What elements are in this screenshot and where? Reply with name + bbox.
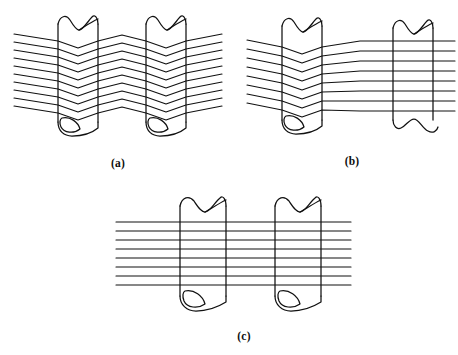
panel-a-tube-left (58, 16, 98, 136)
panel-c-caption: (c) (237, 330, 250, 343)
panel-c: (c) (116, 197, 351, 343)
figure-container: (a) (0, 0, 458, 355)
panel-a-tube-right (146, 16, 186, 136)
panel-a-caption: (a) (111, 157, 125, 170)
panel-b-caption: (b) (345, 155, 360, 168)
panel-a: (a) (14, 16, 222, 170)
panel-c-tube-right (275, 197, 321, 311)
panel-c-tube-left (180, 197, 226, 311)
panel-c-filament-lines (116, 222, 351, 285)
panel-a-filament-lines (14, 34, 222, 120)
panel-b-tube-right (393, 20, 438, 132)
panel-b-filament-lines (247, 40, 455, 117)
panel-b: (b) (247, 18, 455, 168)
technical-line-figure: (a) (0, 0, 458, 355)
